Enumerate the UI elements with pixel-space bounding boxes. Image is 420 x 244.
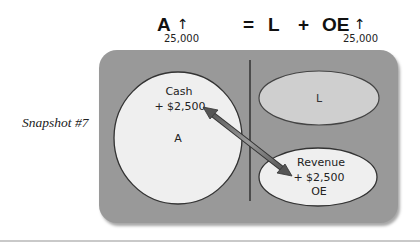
cash-change-label: + $2,500 [154, 100, 205, 113]
transaction-diagram: Cash + $2,500 A L Revenue + $2,500 OE [0, 0, 420, 244]
cash-account-label: Cash [165, 85, 192, 98]
assets-circle: Cash + $2,500 A [114, 72, 242, 204]
liabilities-ellipse: L [259, 71, 379, 125]
assets-category-label: A [174, 132, 182, 145]
bottom-divider [0, 240, 420, 242]
revenue-change-label: + $2,500 [293, 171, 344, 184]
revenue-account-label: Revenue [297, 156, 345, 169]
liabilities-category-label: L [316, 92, 323, 105]
equity-ellipse: Revenue + $2,500 OE [259, 148, 377, 206]
equity-category-label: OE [311, 185, 327, 198]
